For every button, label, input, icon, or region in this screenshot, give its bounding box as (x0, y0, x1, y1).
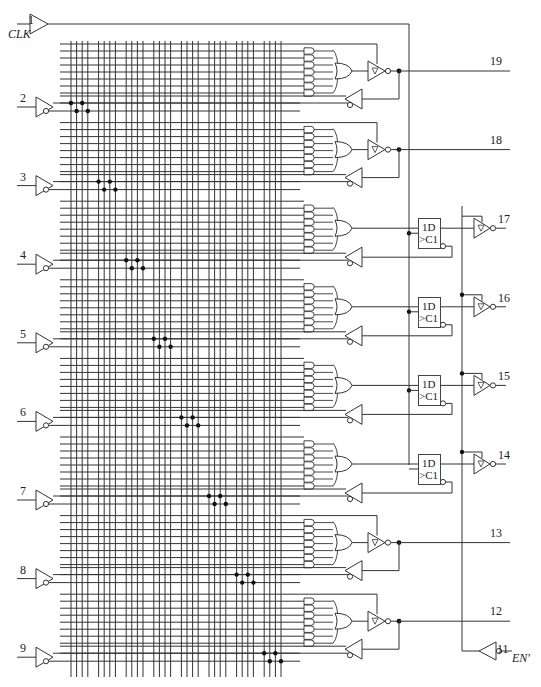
output-pin-13-label: 13 (490, 527, 502, 539)
input-pin-9-label: 9 (20, 642, 26, 654)
ff-clock-label: >C1 (419, 470, 438, 481)
wiring-svg (0, 0, 541, 687)
pin-label-clk: CLK (8, 28, 31, 40)
input-pin-7-label: 7 (20, 485, 26, 497)
ff-d-label: 1D (422, 222, 435, 233)
output-pin-16-label: 16 (498, 292, 510, 304)
input-pin-2-label: 2 (20, 92, 26, 104)
ff-clock-label: >C1 (419, 313, 438, 324)
output-pin-14-label: 14 (498, 449, 510, 461)
output-pin-15-label: 15 (498, 370, 510, 382)
output-pin-17-label: 17 (498, 213, 510, 225)
ff-d-label: 1D (422, 301, 435, 312)
input-pin-3-label: 3 (20, 171, 26, 183)
d-flip-flop-16: 1D>C1 (418, 297, 441, 328)
input-pin-5-label: 5 (20, 328, 26, 340)
output-pin-18-label: 18 (490, 134, 502, 146)
d-flip-flop-14: 1D>C1 (418, 454, 441, 485)
ff-d-label: 1D (422, 458, 435, 469)
input-pin-4-label: 4 (20, 249, 26, 261)
output-pin-12-label: 12 (490, 605, 502, 617)
output-pin-19-label: 19 (490, 55, 502, 67)
ff-clock-label: >C1 (419, 391, 438, 402)
ff-d-label: 1D (422, 379, 435, 390)
pin-label-en: EN' (512, 652, 530, 664)
ff-clock-label: >C1 (419, 234, 438, 245)
d-flip-flop-15: 1D>C1 (418, 375, 441, 406)
d-flip-flop-17: 1D>C1 (418, 218, 441, 249)
pin-label-clk-number: 1 (28, 14, 34, 26)
input-pin-8-label: 8 (20, 564, 26, 576)
input-pin-6-label: 6 (20, 406, 26, 418)
logic-diagram: 1 CLK 11 EN' 191817161514131223456789 1D… (0, 0, 541, 687)
pin-label-en-number: 11 (497, 643, 509, 655)
